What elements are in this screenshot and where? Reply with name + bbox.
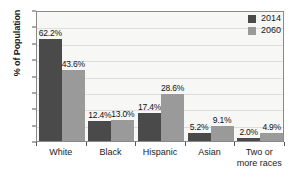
- x-axis-category-label: White: [49, 147, 72, 158]
- bar-value-label: 5.2%: [190, 122, 209, 132]
- bar-2060-black: [111, 120, 134, 141]
- x-axis-category-label: Hispanic: [143, 147, 178, 158]
- bar-value-label: 28.6%: [161, 83, 184, 93]
- y-axis-tick-mark: [32, 27, 36, 28]
- y-axis-tick-mark: [32, 76, 36, 77]
- bar-2014-black: [88, 121, 111, 141]
- bar-value-label: 13.0%: [111, 109, 134, 119]
- x-axis-tick-mark: [284, 142, 285, 146]
- bar-value-label: 9.1%: [213, 115, 232, 125]
- bar-2014-asian: [188, 133, 211, 142]
- legend-swatch-icon: [248, 15, 256, 23]
- x-axis-tick-mark: [36, 142, 37, 146]
- legend-label: 2014: [261, 14, 281, 23]
- y-axis-tick-mark: [32, 43, 36, 44]
- bar-chart: % of Population 62.2%43.6%12.4%13.0%17.4…: [0, 0, 289, 173]
- y-axis-tick-mark: [32, 92, 36, 93]
- x-axis-tick-mark: [86, 142, 87, 146]
- bar-2060-white: [62, 70, 85, 141]
- x-axis-tick-mark: [234, 142, 235, 146]
- x-axis-tick-mark: [135, 142, 136, 146]
- bar-2014-white: [39, 39, 62, 141]
- bar-2014-hispanic: [138, 113, 161, 141]
- x-axis-category-label: Black: [99, 147, 121, 158]
- bar-value-label: 43.6%: [62, 59, 85, 69]
- bars-layer: 62.2%43.6%12.4%13.0%17.4%28.6%5.2%9.1%2.…: [37, 12, 283, 141]
- bar-value-label: 12.4%: [88, 110, 111, 120]
- y-axis-tick-mark: [32, 60, 36, 61]
- bar-value-label: 17.4%: [138, 102, 161, 112]
- bar-2060-hispanic: [161, 94, 184, 141]
- bar-value-label: 4.9%: [262, 122, 281, 132]
- legend-swatch-icon: [248, 27, 256, 35]
- plot-area: 62.2%43.6%12.4%13.0%17.4%28.6%5.2%9.1%2.…: [36, 11, 284, 142]
- bar-value-label: 2.0%: [239, 127, 258, 137]
- bar-value-label: 62.2%: [39, 28, 62, 38]
- bar-2014-two-or-more-races: [237, 138, 260, 141]
- x-axis-category-label: Two ormore races: [237, 147, 282, 169]
- y-axis-tick-mark: [32, 11, 36, 12]
- y-axis-tick-mark: [32, 125, 36, 126]
- bar-2060-two-or-more-races: [260, 133, 283, 141]
- x-axis-category-label: Asian: [198, 147, 221, 158]
- bar-2060-asian: [211, 126, 234, 141]
- legend-label: 2060: [261, 26, 281, 35]
- legend-item-2014: 2014: [248, 14, 281, 23]
- legend: 20142060: [248, 14, 281, 35]
- y-axis-title: % of Population: [12, 0, 22, 96]
- x-axis-tick-mark: [185, 142, 186, 146]
- y-axis-tick-mark: [32, 109, 36, 110]
- legend-item-2060: 2060: [248, 26, 281, 35]
